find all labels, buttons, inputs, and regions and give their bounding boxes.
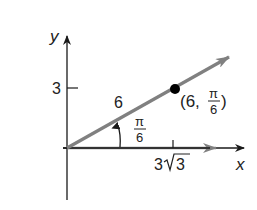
x-tick-label-coef: 3 (154, 156, 163, 173)
point-label-open: (6, (180, 92, 200, 111)
y-tick-label: 3 (52, 80, 61, 97)
point-marker (170, 84, 180, 94)
polar-diagram: y x 3 3 3 6 π 6 (6, π 6 ) (0, 0, 257, 210)
point-label-num: π (209, 86, 218, 101)
angle-label-num: π (135, 114, 144, 129)
ray-length-label: 6 (114, 94, 123, 111)
angle-label-den: 6 (136, 130, 143, 145)
x-axis-label: x (235, 155, 245, 174)
angle-arc-icon (118, 126, 120, 147)
ray (67, 57, 229, 148)
point-label-den: 6 (210, 102, 217, 117)
point-label-close: ) (221, 92, 227, 111)
x-tick-label-radicand: 3 (176, 156, 185, 173)
y-axis-label: y (49, 27, 60, 46)
